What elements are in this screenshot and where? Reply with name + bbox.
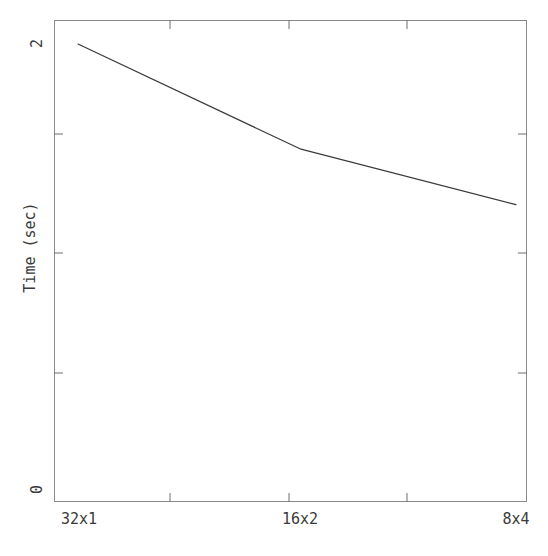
plot-frame <box>54 20 527 502</box>
y-axis-tick-label-min: 0 <box>30 481 45 499</box>
x-axis-tick-label-16x2: 16x2 <box>265 512 335 527</box>
x-axis-tick-label-8x4: 8x4 <box>487 512 545 527</box>
y-axis-tick-label-max: 2 <box>30 35 45 53</box>
y-axis-title: Time (sec) <box>23 188 38 308</box>
x-axis-tick-label-32x1: 32x1 <box>44 512 114 527</box>
chart-figure: 2 0 Time (sec) 32x1 16x2 8x4 <box>0 0 548 556</box>
